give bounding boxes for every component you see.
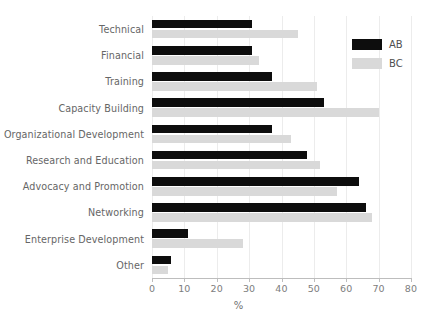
bar-ab <box>152 177 359 186</box>
bar-bc <box>152 108 379 117</box>
legend-label: AB <box>389 39 403 50</box>
bar-group: Capacity Building <box>152 95 411 121</box>
legend-label: BC <box>389 58 403 69</box>
x-tick-label: 40 <box>275 283 288 294</box>
bar-ab <box>152 203 366 212</box>
x-tick-label: 70 <box>372 283 385 294</box>
bar-ab <box>152 229 188 238</box>
x-tick-mark <box>217 278 218 282</box>
category-label: Other <box>116 259 144 270</box>
bar-bc <box>152 239 243 248</box>
x-tick-mark <box>346 278 347 282</box>
bar-group: Enterprise Development <box>152 226 411 252</box>
bar-bc <box>152 213 372 222</box>
bar-group: Other <box>152 252 411 278</box>
legend-swatch <box>352 39 382 50</box>
category-label: Technical <box>99 24 144 35</box>
bar-bc <box>152 56 259 65</box>
category-label: Research and Education <box>26 155 144 166</box>
bar-ab <box>152 72 272 81</box>
category-label: Advocacy and Promotion <box>23 181 144 192</box>
category-label: Financial <box>101 50 144 61</box>
bar-bc <box>152 82 317 91</box>
bar-ab <box>152 256 171 265</box>
legend-item: BC <box>352 55 430 71</box>
bar-ab <box>152 151 307 160</box>
category-label: Training <box>105 76 144 87</box>
bar-ab <box>152 46 252 55</box>
bar-group: Networking <box>152 199 411 225</box>
category-label: Capacity Building <box>58 102 144 113</box>
x-axis-title-text: % <box>234 300 244 311</box>
category-label: Enterprise Development <box>25 233 144 244</box>
x-tick-label: 60 <box>340 283 353 294</box>
bar-ab <box>152 20 252 29</box>
x-tick-mark <box>314 278 315 282</box>
x-tick-label: 20 <box>211 283 224 294</box>
bar-chart: TechnicalFinancialTrainingCapacity Build… <box>0 0 435 323</box>
category-label: Networking <box>88 207 144 218</box>
bar-ab <box>152 125 272 134</box>
x-tick-label: 10 <box>178 283 191 294</box>
x-tick-mark <box>282 278 283 282</box>
x-tick-label: 80 <box>405 283 418 294</box>
x-tick-mark <box>184 278 185 282</box>
bar-group: Organizational Development <box>152 121 411 147</box>
x-tick-mark <box>152 278 153 282</box>
bar-bc <box>152 30 298 39</box>
x-tick-mark <box>249 278 250 282</box>
category-label: Organizational Development <box>4 128 144 139</box>
x-tick-label: 0 <box>149 283 155 294</box>
x-tick-label: 50 <box>308 283 321 294</box>
x-tick-label: 30 <box>243 283 256 294</box>
bar-bc <box>152 266 168 275</box>
bar-group: Advocacy and Promotion <box>152 173 411 199</box>
x-tick-mark <box>379 278 380 282</box>
bar-bc <box>152 161 320 170</box>
x-axis-title: % <box>0 300 435 311</box>
chart-legend: ABBC <box>352 36 430 74</box>
bar-bc <box>152 135 291 144</box>
bar-bc <box>152 187 337 196</box>
legend-swatch <box>352 58 382 69</box>
x-tick-mark <box>411 278 412 282</box>
bar-group: Research and Education <box>152 147 411 173</box>
bar-ab <box>152 98 324 107</box>
legend-item: AB <box>352 36 430 52</box>
